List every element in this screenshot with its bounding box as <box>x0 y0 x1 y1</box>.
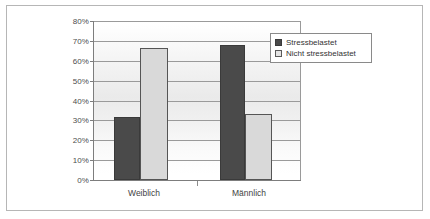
y-tickmark-20 <box>90 140 94 141</box>
y-tickmark-70 <box>90 41 94 42</box>
bar-maennlich-nicht-stressbelastet <box>245 114 272 180</box>
bar-weiblich-nicht-stressbelastet <box>140 48 168 180</box>
gridline-80 <box>93 21 300 22</box>
y-tickmark-80 <box>90 21 94 22</box>
y-tickmark-50 <box>90 81 94 82</box>
light-square-icon <box>275 50 282 57</box>
x-tick-label-weiblich: Weiblich <box>128 188 160 198</box>
y-axis-labels: 80% 70% 60% 50% 40% 30% 20% 10% 0% <box>0 0 89 219</box>
bar-weiblich-stressbelastet <box>114 117 140 180</box>
chart-legend: Stressbelastet Nicht stressbelastet <box>270 33 372 63</box>
bar-chart: 80% 70% 60% 50% 40% 30% 20% 10% 0% Weibl… <box>0 0 430 219</box>
bar-maennlich-stressbelastet <box>220 45 245 180</box>
plot-area <box>93 21 300 180</box>
y-tick-label-0: 0% <box>5 176 89 185</box>
legend-item-nicht-stressbelastet: Nicht stressbelastet <box>275 48 367 59</box>
gridline-60 <box>93 61 300 62</box>
y-tick-label-50: 50% <box>5 76 89 85</box>
y-tickmark-40 <box>90 101 94 102</box>
gridline-50 <box>93 81 300 82</box>
y-tick-label-10: 10% <box>5 156 89 165</box>
dark-square-icon <box>275 39 282 46</box>
y-tick-label-70: 70% <box>5 36 89 45</box>
y-tickmark-10 <box>90 160 94 161</box>
y-tick-label-40: 40% <box>5 96 89 105</box>
gridline-40 <box>93 101 300 102</box>
x-axis-separator <box>197 181 198 186</box>
y-tick-label-20: 20% <box>5 136 89 145</box>
y-tickmark-0 <box>90 180 94 181</box>
y-tick-label-80: 80% <box>5 17 89 26</box>
y-tick-label-60: 60% <box>5 56 89 65</box>
x-tick-label-maennlich: Männlich <box>232 188 266 198</box>
legend-label-stressbelastet: Stressbelastet <box>286 38 337 48</box>
legend-label-nicht-stressbelastet: Nicht stressbelastet <box>286 49 356 59</box>
y-tickmark-30 <box>90 120 94 121</box>
gridline-70 <box>93 41 300 42</box>
y-tickmark-60 <box>90 61 94 62</box>
y-tick-label-30: 30% <box>5 116 89 125</box>
legend-item-stressbelastet: Stressbelastet <box>275 37 367 48</box>
